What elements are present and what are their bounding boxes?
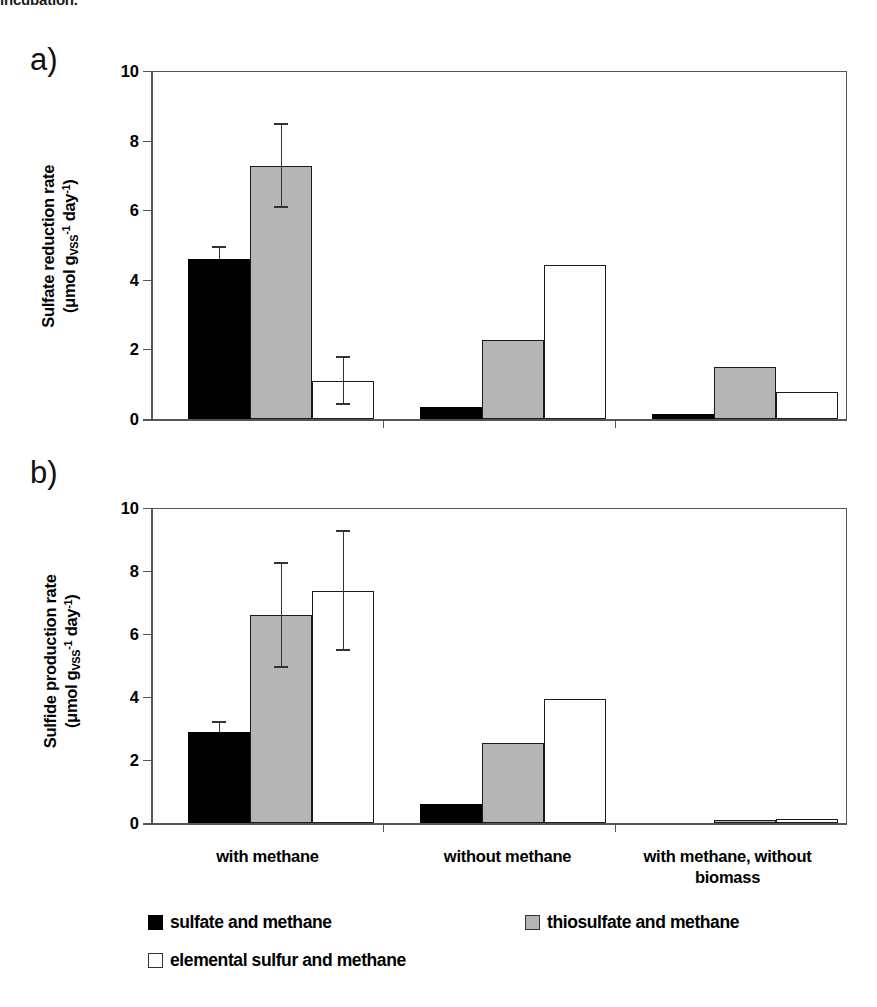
panel-b-tick-6 xyxy=(143,634,151,635)
panel-a-x-axis xyxy=(143,419,847,421)
x-category-without-methane: without methane xyxy=(420,846,595,867)
panel-b-group-tick-1 xyxy=(383,823,384,832)
errorcap-a-g1-sulfur-top xyxy=(336,356,350,358)
panel-b-ticklabel-4: 4 xyxy=(105,688,139,707)
errorcap-a-g1-sulfur-bottom xyxy=(336,403,350,405)
panel-a-y-axis-label-line2: (μmol gVSS-1 day-1) xyxy=(59,129,81,364)
errorbar-b-g1-sulfur xyxy=(343,531,344,650)
chart-panel-b: b) Sulfide production rate (μmol gVSS-1 … xyxy=(0,455,877,840)
legend-item-elemental-sulfur[interactable]: elemental sulfur and methane xyxy=(148,950,406,971)
panel-b-tick-2 xyxy=(143,760,151,761)
x-axis-category-labels: with methane without methane with methan… xyxy=(0,846,877,906)
panel-b-ticklabel-0: 0 xyxy=(105,814,139,833)
panel-b-ticklabel-6: 6 xyxy=(105,625,139,644)
legend-label-sulfate: sulfate and methane xyxy=(170,912,332,933)
clipped-caption-text: incubation. xyxy=(0,0,78,8)
panel-b-ticklabel-10: 10 xyxy=(105,499,139,518)
errorbar-a-g1-thiosulfate xyxy=(281,124,282,208)
errorcap-b-g1-sulfur-top xyxy=(336,530,350,532)
bar-b-g3-thiosulfate[interactable] xyxy=(714,820,776,823)
legend-label-thiosulfate: thiosulfate and methane xyxy=(547,912,739,933)
panel-b-x-axis xyxy=(143,823,847,825)
legend-swatch-white-square-icon xyxy=(148,953,163,968)
panel-b-tick-4 xyxy=(143,697,151,698)
panel-b-ticklabel-8: 8 xyxy=(105,562,139,581)
legend-item-thiosulfate[interactable]: thiosulfate and methane xyxy=(525,912,739,933)
legend-label-elemental-sulfur: elemental sulfur and methane xyxy=(170,950,406,971)
errorbar-a-g1-sulfur xyxy=(343,357,344,404)
panel-a-ticklabel-8: 8 xyxy=(105,132,139,151)
bar-a-g2-sulfur[interactable] xyxy=(544,265,606,420)
panel-b-tick-8 xyxy=(143,571,151,572)
panel-a-y-axis-label-line1: Sulfate reduction rate xyxy=(39,165,57,328)
panel-a-right-border xyxy=(846,71,847,420)
panel-b-tick-10 xyxy=(143,508,151,509)
bar-b-g3-sulfur[interactable] xyxy=(776,819,838,823)
x-category-with-methane: with methane xyxy=(190,846,345,867)
legend-swatch-black-square-icon xyxy=(148,915,163,930)
panel-a-tick-2 xyxy=(143,349,151,350)
errorcap-a-g1-thiosulfate-top xyxy=(274,123,288,125)
panel-a-letter: a) xyxy=(30,42,58,78)
errorcap-b-g1-sulfur-bottom xyxy=(336,649,350,651)
panel-a-ticklabel-0: 0 xyxy=(105,410,139,429)
errorcap-b-g1-thiosulfate-top xyxy=(274,562,288,564)
panel-a-top-border xyxy=(151,71,847,72)
bar-a-g1-sulfate[interactable] xyxy=(188,259,250,419)
panel-a-tick-4 xyxy=(143,280,151,281)
errorbar-a-g1-sulfate xyxy=(219,247,220,259)
panel-a-group-tick-1 xyxy=(383,419,384,428)
chart-panel-a: a) Sulfate reduction rate (μmol gVSS-1 d… xyxy=(0,40,877,440)
legend-swatch-grey-square-icon xyxy=(525,915,540,930)
bar-b-g2-sulfur[interactable] xyxy=(544,699,606,823)
panel-b-y-axis-label: Sulfide production rate (μmol gVSS-1 day… xyxy=(40,544,83,779)
errorbar-b-g1-sulfate xyxy=(219,722,220,731)
errorcap-b-g1-sulfate-top xyxy=(212,721,226,723)
errorcap-a-g1-thiosulfate-bottom xyxy=(274,206,288,208)
panel-b-right-border xyxy=(846,508,847,824)
panel-a-ticklabel-6: 6 xyxy=(105,201,139,220)
bar-a-g2-thiosulfate[interactable] xyxy=(482,340,544,419)
legend-item-sulfate[interactable]: sulfate and methane xyxy=(148,912,332,933)
bar-a-g2-sulfate[interactable] xyxy=(420,407,482,419)
panel-b-ticklabel-2: 2 xyxy=(105,751,139,770)
panel-a-tick-10 xyxy=(143,71,151,72)
bar-a-g3-thiosulfate[interactable] xyxy=(714,367,776,419)
panel-a-group-tick-2 xyxy=(615,419,616,428)
panel-a-y-axis xyxy=(151,71,153,420)
bar-b-g1-sulfate[interactable] xyxy=(188,732,250,823)
panel-a-tick-8 xyxy=(143,141,151,142)
bar-b-g2-sulfate[interactable] xyxy=(420,804,482,823)
bar-b-g2-thiosulfate[interactable] xyxy=(482,743,544,823)
errorcap-b-g1-thiosulfate-bottom xyxy=(274,666,288,668)
panel-b-y-axis xyxy=(151,508,153,824)
panel-b-letter: b) xyxy=(30,455,58,491)
panel-b-group-tick-2 xyxy=(615,823,616,832)
panel-a-ticklabel-10: 10 xyxy=(105,62,139,81)
panel-a-y-axis-label: Sulfate reduction rate (μmol gVSS-1 day-… xyxy=(38,129,81,364)
panel-a-plot-area xyxy=(151,71,847,419)
x-category-with-methane-without-biomass: with methane, without biomass xyxy=(610,846,845,888)
panel-b-y-axis-label-line1: Sulfide production rate xyxy=(41,574,59,748)
panel-b-y-axis-label-line2: (μmol gVSS-1 day-1) xyxy=(61,544,83,779)
panel-b-top-border xyxy=(151,508,847,509)
panel-a-tick-6 xyxy=(143,210,151,211)
panel-a-ticklabel-2: 2 xyxy=(105,340,139,359)
bar-a-g3-sulfur[interactable] xyxy=(776,392,838,419)
errorbar-b-g1-thiosulfate xyxy=(281,563,282,667)
errorcap-a-g1-sulfate-top xyxy=(212,246,226,248)
panel-a-ticklabel-4: 4 xyxy=(105,271,139,290)
bar-a-g3-sulfate[interactable] xyxy=(652,414,714,419)
panel-b-plot-area xyxy=(151,508,847,823)
